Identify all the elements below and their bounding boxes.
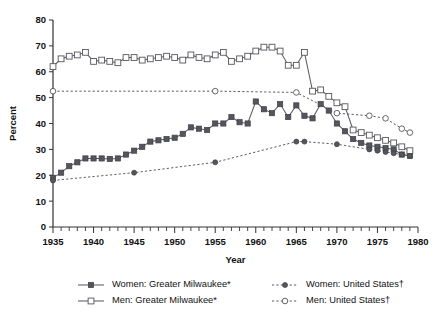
- legend-item-label: Women: Greater Milwaukee*: [112, 279, 231, 289]
- legend-swatch-marker: [283, 283, 288, 288]
- data-point: [286, 114, 291, 119]
- series-line: [53, 142, 410, 181]
- y-axis-tick-label: 40: [35, 118, 46, 129]
- data-point: [83, 49, 89, 55]
- data-point: [302, 49, 308, 55]
- x-axis-tick-label: 1980: [407, 236, 428, 247]
- data-point: [237, 120, 242, 125]
- legend-item-label: Men: Greater Milwaukee*: [112, 295, 217, 305]
- chart-legend: Women: Greater Milwaukee*Women: United S…: [78, 279, 404, 305]
- data-point: [391, 151, 396, 156]
- y-axis-tick-label: 70: [35, 40, 46, 51]
- data-point: [196, 55, 202, 61]
- legend-item[interactable]: Women: Greater Milwaukee*: [78, 279, 231, 289]
- data-point: [383, 137, 389, 143]
- data-point: [50, 88, 56, 94]
- data-point: [132, 148, 137, 153]
- data-point: [334, 121, 339, 126]
- data-point: [83, 156, 88, 161]
- y-axis-tick-label: 60: [35, 66, 46, 77]
- series-line: [53, 102, 410, 178]
- data-point: [277, 48, 283, 54]
- data-point: [220, 49, 226, 55]
- y-axis-tick-label: 0: [41, 221, 46, 232]
- data-point: [67, 164, 72, 169]
- data-point: [99, 57, 105, 63]
- legend-swatch-marker: [282, 298, 288, 304]
- x-axis-tick-label: 1955: [205, 236, 227, 247]
- data-point: [180, 57, 186, 63]
- data-point: [139, 57, 145, 63]
- data-point: [74, 52, 80, 58]
- data-point: [261, 44, 267, 50]
- data-point: [269, 111, 274, 116]
- data-point: [334, 100, 340, 106]
- data-point: [261, 107, 266, 112]
- x-axis-tick-label: 1940: [83, 236, 104, 247]
- data-point: [59, 170, 64, 175]
- legend-item-label: Women: United States†: [306, 279, 404, 289]
- y-axis-title: Percent: [7, 105, 18, 141]
- series-line: [53, 91, 410, 132]
- data-point: [375, 148, 380, 153]
- data-point: [269, 44, 275, 50]
- x-axis-title: Year: [225, 254, 245, 265]
- data-point: [213, 121, 218, 126]
- data-point: [351, 136, 356, 141]
- x-axis-tick-label: 1945: [124, 236, 146, 247]
- data-point: [172, 135, 177, 140]
- legend-item[interactable]: Men: United States†: [272, 295, 390, 305]
- legend-item-label: Men: United States†: [306, 295, 390, 305]
- data-point: [342, 104, 348, 110]
- data-point: [172, 55, 178, 61]
- data-point: [407, 153, 412, 158]
- data-point: [294, 103, 299, 108]
- y-axis-tick-label: 80: [35, 14, 46, 25]
- data-point: [156, 55, 162, 61]
- data-point: [50, 64, 56, 70]
- data-point: [213, 160, 218, 165]
- axis-lines: [53, 20, 418, 227]
- y-axis-tick-label: 10: [35, 196, 46, 207]
- data-point: [107, 59, 113, 65]
- data-point: [366, 132, 372, 138]
- data-point: [375, 135, 381, 141]
- data-point: [229, 59, 235, 65]
- legend-item[interactable]: Women: United States†: [272, 279, 404, 289]
- data-point: [115, 60, 121, 66]
- data-point: [156, 138, 161, 143]
- legend-item[interactable]: Men: Greater Milwaukee*: [78, 295, 217, 305]
- x-axis-tick-label: 1960: [245, 236, 266, 247]
- smoking-prevalence-line-chart: 01020304050607080Percent1935194019451950…: [0, 0, 442, 319]
- data-point: [399, 126, 405, 132]
- data-point: [334, 142, 339, 147]
- data-point: [131, 55, 137, 61]
- data-point: [164, 136, 169, 141]
- data-point: [383, 149, 388, 154]
- data-point: [294, 139, 299, 144]
- data-point: [196, 126, 201, 131]
- data-point: [326, 108, 331, 113]
- data-point: [391, 140, 397, 146]
- data-point: [399, 152, 404, 157]
- data-point: [107, 156, 112, 161]
- legend-swatch-marker: [88, 282, 93, 287]
- data-point: [58, 56, 64, 62]
- data-point: [148, 139, 153, 144]
- data-point: [302, 139, 307, 144]
- series-1: [50, 99, 412, 181]
- data-point: [123, 152, 128, 157]
- series-2: [50, 44, 413, 153]
- data-point: [342, 129, 347, 134]
- data-point: [407, 148, 413, 154]
- data-point: [51, 178, 56, 183]
- data-point: [359, 140, 364, 145]
- data-point: [294, 90, 300, 96]
- data-point: [310, 116, 315, 121]
- x-axis-tick-label: 1935: [42, 236, 64, 247]
- data-point: [383, 116, 389, 122]
- data-point: [212, 88, 218, 94]
- x-axis-tick-label: 1975: [367, 236, 389, 247]
- data-point: [367, 113, 373, 119]
- data-point: [334, 110, 340, 116]
